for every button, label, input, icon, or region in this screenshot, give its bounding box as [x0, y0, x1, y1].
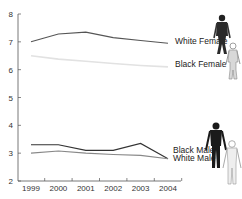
y-tick-label: 3 [9, 149, 14, 158]
x-tick-label: 2003 [132, 184, 150, 193]
series-line-white-male [31, 151, 168, 159]
y-tick-label: 5 [9, 94, 14, 103]
y-tick-label: 7 [9, 38, 14, 47]
series-lines [31, 32, 168, 159]
series-line-black-female [31, 56, 168, 67]
y-tick-label: 6 [9, 66, 14, 75]
y-tick-label: 8 [9, 10, 14, 19]
x-tick-label: 2001 [77, 184, 95, 193]
y-tick-label: 4 [9, 121, 14, 130]
dark-female-figure-icon [214, 15, 230, 54]
x-tick-label: 2002 [104, 184, 122, 193]
line-chart: 2345678 199920002001200220032004 White F… [0, 0, 242, 199]
series-label-white-male: White Male [173, 153, 216, 163]
series-label-black-female: Black Female [175, 59, 227, 69]
light-female-figure-icon [226, 43, 240, 79]
x-axis-ticks: 199920002001200220032004 [22, 178, 182, 193]
y-axis-ticks: 2345678 [9, 10, 21, 186]
y-tick-label: 2 [9, 177, 14, 186]
x-tick-label: 2004 [159, 184, 177, 193]
series-line-white-female [31, 32, 168, 43]
x-tick-label: 2000 [50, 184, 68, 193]
x-tick-label: 1999 [22, 184, 40, 193]
